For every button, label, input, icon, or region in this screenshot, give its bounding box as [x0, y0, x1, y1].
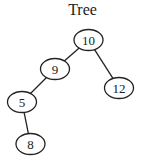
node-label: 9	[52, 62, 59, 77]
tree-node-8: 8	[16, 134, 45, 155]
edge-10-12	[95, 50, 113, 79]
node-label: 12	[113, 81, 126, 96]
edge-10-9	[64, 48, 79, 61]
tree-diagram: 1091258	[0, 0, 143, 162]
node-label: 10	[82, 33, 95, 48]
tree-node-10: 10	[74, 30, 103, 51]
edge-5-8	[24, 112, 28, 133]
edge-9-5	[31, 78, 47, 94]
tree-node-12: 12	[105, 78, 134, 99]
node-label: 8	[27, 137, 34, 152]
node-label: 5	[19, 95, 26, 110]
tree-node-5: 5	[8, 92, 37, 113]
tree-node-9: 9	[41, 59, 70, 80]
tree-edges	[24, 48, 113, 134]
tree-nodes: 1091258	[8, 30, 134, 155]
